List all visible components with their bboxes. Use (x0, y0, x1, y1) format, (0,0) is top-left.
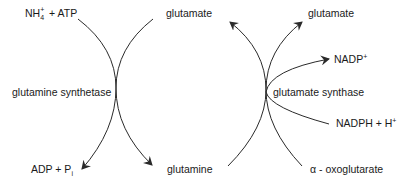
label-glutamate-top-right: glutamate (308, 7, 354, 19)
label-nadph-h: NADPH + H+ (336, 117, 396, 129)
h-superscript: + (392, 117, 396, 124)
label-glutamate-top-left: glutamate (166, 7, 212, 19)
pi-subscript: i (71, 170, 73, 177)
arrow-glutamine-to-glutamate (228, 22, 266, 166)
nadp-base: NADP (334, 53, 363, 65)
label-glutamine-synthetase: glutamine synthetase (12, 86, 111, 98)
label-ammonium-atp: NH+4 + ATP (25, 7, 77, 19)
nadp-superscript: + (363, 53, 367, 60)
ammonium-suffix: + ATP (46, 7, 77, 19)
label-glutamine: glutamine (167, 163, 213, 175)
nadph-base: NADPH + H (336, 117, 392, 129)
ammonium-base: NH (25, 7, 40, 19)
ammonium-subscript: 4 (40, 14, 44, 21)
arrow-glutamate-to-glutamine (116, 19, 153, 165)
glutamine-glutamate-cycle-diagram: NH+4 + ATP glutamate glutamine synthetas… (0, 0, 407, 188)
adp-pi-base: ADP + P (31, 163, 71, 175)
label-nadp: NADP+ (334, 53, 367, 65)
label-alpha-oxoglutarate: α - oxoglutarate (310, 163, 383, 175)
label-adp-pi: ADP + Pi (31, 163, 73, 175)
label-glutamate-synthase: glutamate synthase (273, 86, 364, 98)
ammonium-charge: +4 (40, 7, 46, 19)
ammonium-superscript: + (40, 6, 44, 13)
